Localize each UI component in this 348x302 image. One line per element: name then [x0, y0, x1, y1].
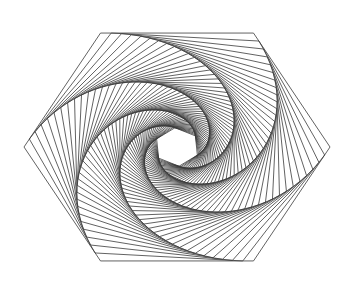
nested-hexagon	[124, 104, 231, 190]
nested-hexagon	[108, 85, 246, 208]
spiral-hexagon-figure	[0, 0, 348, 302]
nested-hexagon	[61, 41, 294, 254]
nested-hexagon	[54, 38, 300, 256]
nested-hexagon	[83, 70, 271, 224]
nested-hexagon-spiral	[0, 0, 348, 302]
nested-hexagon	[88, 79, 266, 215]
